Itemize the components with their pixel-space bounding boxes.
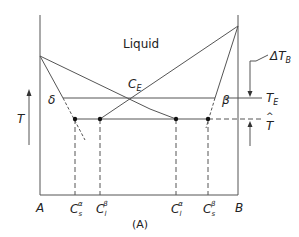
point-cl-alpha <box>174 117 178 121</box>
composition-cl-alpha: Clα <box>171 200 183 218</box>
growth-temp-arrowhead-icon <box>248 121 253 127</box>
point-cs-alpha <box>73 117 77 121</box>
temperature-axis-label: T <box>17 112 26 126</box>
growth-temp-label: T <box>266 119 275 133</box>
temperature-arrowhead-icon <box>27 89 32 96</box>
eutectic-composition-label: CE <box>128 77 142 93</box>
solidus-right <box>215 26 238 98</box>
figure-caption: (A) <box>132 218 148 231</box>
solidus-right-metastable <box>206 98 215 128</box>
beta-phase-label: β <box>221 93 230 107</box>
liquidus-left-extension <box>150 109 176 119</box>
undercooling-arrowhead-icon <box>248 91 253 97</box>
composition-cl-beta: Clβ <box>96 200 108 218</box>
solidus-left <box>40 56 63 98</box>
liquidus-right <box>100 26 238 119</box>
point-cl-beta <box>98 117 102 121</box>
eutectic-temp-label: TE <box>266 91 279 107</box>
composition-cs-alpha: Csα <box>70 200 83 218</box>
phase-diagram: Liquid CE δ β T ΔTB TE ^ T A B Csα Clβ C… <box>0 0 299 237</box>
undercooling-label: ΔTB <box>269 49 291 65</box>
undercooling-leader <box>250 55 268 93</box>
delta-phase-label: δ <box>48 93 55 107</box>
endpoint-a-label: A <box>35 201 44 215</box>
composition-cs-beta: Csβ <box>203 200 216 218</box>
endpoint-b-label: B <box>235 201 243 215</box>
liquid-region-label: Liquid <box>123 37 159 51</box>
point-cs-beta <box>206 117 210 121</box>
